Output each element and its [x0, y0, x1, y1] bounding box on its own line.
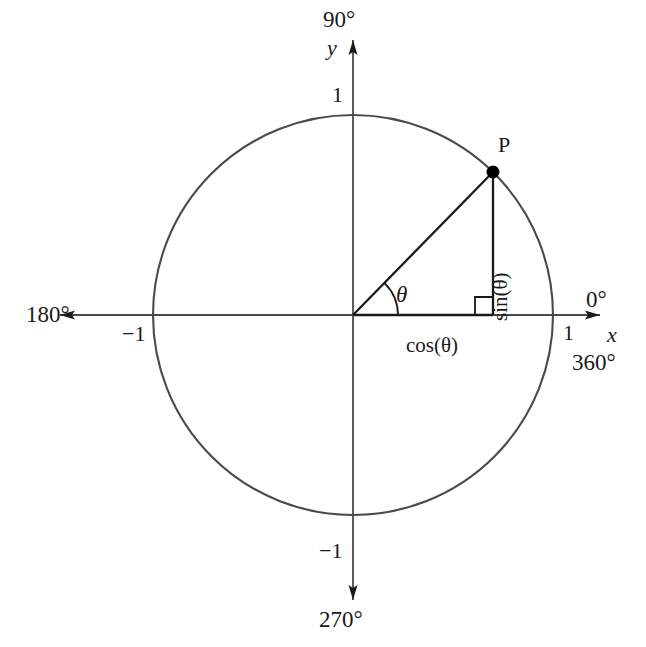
x-axis-label: x	[607, 324, 617, 346]
y-tick-positive-one: 1	[332, 84, 343, 106]
hypotenuse-radius-line	[353, 172, 493, 315]
angle-label-180: 180°	[26, 303, 70, 326]
angle-label-360: 360°	[572, 351, 616, 374]
y-axis-label: y	[327, 37, 337, 59]
angle-label-0: 0°	[586, 288, 607, 311]
x-tick-positive-one: 1	[563, 322, 574, 344]
sine-label: sin(θ)	[490, 272, 511, 321]
theta-label: θ	[396, 283, 407, 306]
angle-label-90: 90°	[323, 8, 355, 31]
unit-circle-figure: 90° y 1 −1 270° 180° −1 1 0° x 360° P θ …	[0, 0, 646, 647]
y-tick-negative-one: −1	[319, 540, 342, 562]
point-p-label: P	[498, 134, 510, 156]
x-tick-negative-one: −1	[122, 323, 145, 345]
cosine-label: cos(θ)	[406, 335, 458, 356]
angle-label-270: 270°	[319, 608, 363, 631]
point-p-marker	[487, 166, 500, 179]
